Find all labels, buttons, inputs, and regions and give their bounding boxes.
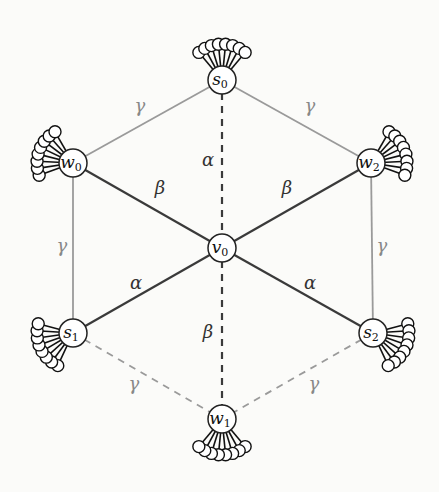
edge-v0-s1 bbox=[73, 248, 222, 333]
leaf-node bbox=[193, 441, 205, 453]
edge-label-s0-w2: γ bbox=[305, 95, 316, 116]
node-w1: w1 bbox=[208, 405, 236, 433]
node-w2: w2 bbox=[357, 149, 385, 177]
edge-label-v0-s2: α bbox=[304, 272, 316, 293]
edge-label-w0-s1: γ bbox=[57, 235, 68, 256]
leaf-node bbox=[32, 318, 44, 330]
edge-label-v0-w1: β bbox=[202, 321, 213, 342]
edge-label-s2-w1: γ bbox=[309, 373, 320, 394]
edge-label-w2-s2: γ bbox=[377, 235, 388, 256]
edge-label-s0-v0: α bbox=[202, 149, 214, 170]
edge-label-s1-w1: γ bbox=[129, 373, 140, 394]
edge-w0-v0 bbox=[73, 163, 222, 248]
leaf-node bbox=[399, 169, 411, 181]
edge-s0-w0 bbox=[73, 80, 222, 163]
edge-s0-w2 bbox=[222, 80, 371, 163]
edge-label-v0-s1: α bbox=[130, 272, 142, 293]
node-s0: s0 bbox=[208, 66, 236, 94]
edge-w2-s2 bbox=[371, 163, 373, 333]
graph-diagram: s0w0w2v0s1s2w1 γγγγββαααβγγ bbox=[0, 0, 439, 492]
edge-label-w0-v0: β bbox=[154, 177, 165, 198]
leaf-node bbox=[239, 46, 251, 58]
edge-label-s0-w0: γ bbox=[135, 95, 146, 116]
node-w0: w0 bbox=[59, 149, 87, 177]
edge-w2-v0 bbox=[222, 163, 371, 248]
edge-v0-s2 bbox=[222, 248, 373, 333]
edge-label-w2-v0: β bbox=[281, 177, 292, 198]
node-s2: s2 bbox=[359, 319, 387, 347]
edge-s1-w1 bbox=[73, 333, 222, 419]
edge-s2-w1 bbox=[222, 333, 373, 419]
graph-svg: s0w0w2v0s1s2w1 γγγγββαααβγγ bbox=[0, 0, 439, 492]
node-s1: s1 bbox=[59, 319, 87, 347]
leaf-node bbox=[382, 360, 394, 372]
leaf-node bbox=[49, 126, 61, 138]
node-v0: v0 bbox=[208, 234, 236, 262]
